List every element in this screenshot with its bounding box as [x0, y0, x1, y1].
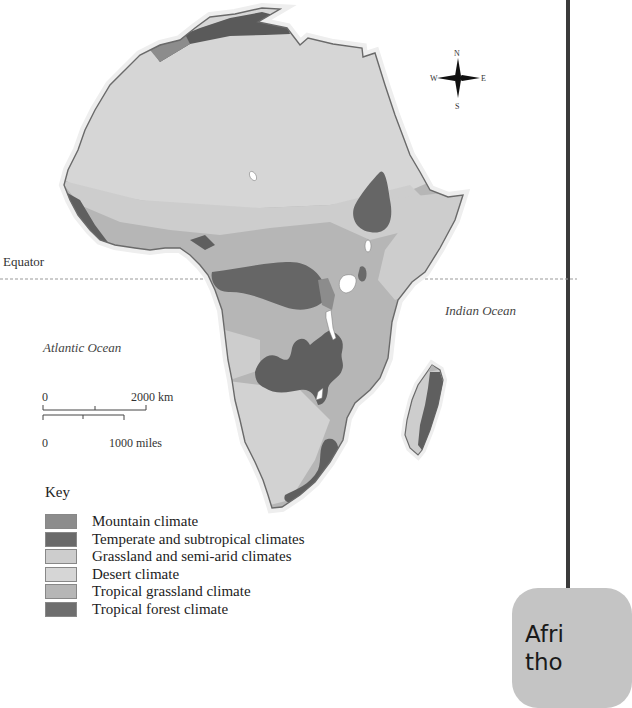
scale-km-end: 2000 km [131, 390, 173, 405]
key-item-temperate: Temperate and subtropical climates [45, 531, 305, 549]
scale-km-start: 0 [42, 390, 48, 404]
swatch-mountain [45, 514, 77, 529]
key-label: Mountain climate [92, 513, 198, 530]
key-item-tropical-grassland: Tropical grassland climate [45, 583, 305, 601]
scale-km-labels: 0 2000 km [42, 390, 48, 405]
callout-line-2: tho [525, 648, 564, 676]
key-item-tropical-forest: Tropical forest climate [45, 601, 305, 619]
indian-ocean-label: Indian Ocean [445, 303, 516, 319]
compass-rose [437, 58, 480, 98]
zone-semiarid-horn [378, 190, 470, 300]
swatch-desert [45, 567, 77, 582]
key-item-desert: Desert climate [45, 566, 305, 584]
key-label: Tropical grassland climate [92, 583, 251, 600]
compass-south-label: S [455, 102, 459, 111]
compass-north-label: N [454, 49, 460, 58]
madagascar [405, 365, 443, 455]
swatch-tropical-forest [45, 602, 77, 617]
swatch-grassland-semiarid [45, 549, 77, 564]
key-label: Grassland and semi-arid climates [92, 548, 292, 565]
key-label: Desert climate [92, 566, 179, 583]
equator-label: Equator [3, 254, 44, 270]
key-item-grassland-semiarid: Grassland and semi-arid climates [45, 548, 305, 566]
callout-text: Afri tho [525, 620, 564, 676]
compass-west-label: W [430, 74, 438, 83]
scale-miles-start: 0 [42, 436, 48, 450]
swatch-temperate [45, 532, 77, 547]
compass-east-label: E [481, 74, 486, 83]
scale-miles-labels: 0 1000 miles [42, 436, 48, 451]
atlantic-ocean-label: Atlantic Ocean [43, 340, 121, 356]
swatch-tropical-grassland [45, 584, 77, 599]
map-key: Key Mountain climate Temperate and subtr… [45, 484, 305, 618]
key-title: Key [45, 484, 305, 501]
key-label: Temperate and subtropical climates [92, 531, 305, 548]
scale-bar [43, 405, 146, 420]
key-item-mountain: Mountain climate [45, 513, 305, 531]
key-label: Tropical forest climate [92, 601, 228, 618]
callout-line-1: Afri [525, 620, 564, 648]
scale-miles-end: 1000 miles [109, 436, 162, 451]
